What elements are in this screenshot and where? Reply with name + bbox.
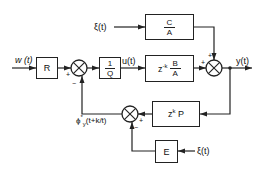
block-plant: z-k B A [145, 55, 194, 82]
phi-star: * [80, 114, 82, 120]
sign-out-plus-top: + [208, 52, 212, 59]
block-r: R [36, 57, 58, 79]
input-w-label: w (t) [15, 56, 33, 65]
noise-denominator: A [167, 28, 172, 37]
sign-pred-minus: − [134, 124, 138, 131]
sign-pred-plus: + [139, 117, 143, 124]
plant-delay: z-k [158, 64, 168, 74]
output-y-label: y(t) [236, 57, 249, 66]
plant-exponent: -k [163, 63, 168, 69]
fraction-1-over-q: 1 Q [105, 59, 115, 78]
block-e: E [155, 140, 178, 163]
control-u-label: u(t) [122, 57, 136, 66]
disturbance-bottom-label: ξ(t) [197, 147, 210, 156]
fraction-c-over-a: C A [164, 18, 176, 37]
inv-q-numerator: 1 [105, 59, 115, 69]
block-noise-model: C A [145, 14, 194, 40]
predictor-label: zk P [168, 109, 184, 119]
block-predictor: zk P [152, 101, 200, 127]
block-r-label: R [44, 63, 51, 73]
block-e-label: E [163, 147, 169, 157]
sign-sum1-minus: − [72, 80, 76, 87]
prediction-label: ϕ*y(t+k/t) [76, 116, 107, 125]
plant-denominator: A [173, 69, 178, 78]
phi-argument: (t+k/t) [86, 116, 107, 125]
diagram-wires [0, 0, 267, 172]
block-inverse-q: 1 Q [99, 57, 121, 79]
predictor-p: P [178, 109, 184, 119]
sign-sum1-plus: + [66, 71, 70, 78]
inv-q-denominator: Q [107, 69, 113, 78]
fraction-b-over-a: B A [170, 59, 181, 78]
plant-numerator: B [170, 59, 181, 69]
noise-numerator: C [164, 18, 176, 28]
sign-out-plus-left: + [201, 59, 205, 66]
disturbance-top-label: ξ(t) [94, 23, 107, 32]
predictor-exponent: k [172, 108, 175, 114]
